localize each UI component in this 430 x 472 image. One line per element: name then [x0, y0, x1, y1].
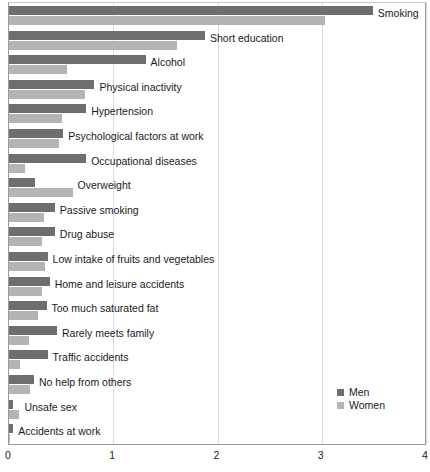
legend-label: Women: [349, 399, 385, 411]
bar-group: Alcohol: [9, 55, 425, 75]
bar-men: [9, 178, 35, 187]
bar-men: [9, 277, 50, 286]
bar-group: Drug abuse: [9, 227, 425, 247]
bar-women: [9, 16, 325, 25]
legend-swatch-icon: [337, 389, 344, 396]
bar-women: [9, 262, 45, 271]
bar-category-label: Short education: [210, 32, 284, 44]
bar-category-label: Occupational diseases: [91, 155, 197, 167]
bar-category-label: No help from others: [39, 376, 131, 388]
bar-women: [9, 336, 29, 345]
bar-category-label: Rarely meets family: [62, 327, 154, 339]
plot-area: SmokingShort educationAlcoholPhysical in…: [8, 2, 426, 445]
bar-women: [9, 90, 85, 99]
legend-swatch-icon: [337, 402, 344, 409]
bar-men: [9, 6, 373, 15]
bar-men: [9, 301, 47, 310]
bar-men: [9, 80, 94, 89]
bar-women: [9, 188, 73, 197]
bar-group: Smoking: [9, 6, 425, 26]
legend-label: Men: [349, 386, 369, 398]
bar-category-label: Traffic accidents: [53, 351, 129, 363]
bar-women: [9, 41, 177, 50]
bar-category-label: Low intake of fruits and vegetables: [53, 253, 215, 265]
bar-women: [9, 164, 25, 173]
bar-women: [9, 410, 19, 419]
bar-men: [9, 424, 13, 433]
x-tick-label-4: 4: [422, 449, 428, 461]
bar-category-label: Home and leisure accidents: [55, 278, 185, 290]
x-tick-label-3: 3: [318, 449, 324, 461]
bar-men: [9, 203, 55, 212]
bar-category-label: Passive smoking: [60, 204, 139, 216]
x-tick-label-0: 0: [5, 449, 11, 461]
bar-men: [9, 375, 34, 384]
bar-men: [9, 129, 63, 138]
bar-group: Home and leisure accidents: [9, 277, 425, 297]
bar-men: [9, 350, 48, 359]
bar-women: [9, 114, 62, 123]
x-tick-label-1: 1: [109, 449, 115, 461]
bar-category-label: Alcohol: [151, 56, 185, 68]
bar-category-label: Physical inactivity: [99, 81, 181, 93]
bar-category-label: Accidents at work: [18, 425, 100, 437]
bar-group: Overweight: [9, 178, 425, 198]
bar-women: [9, 237, 42, 246]
bar-category-label: Unsafe sex: [24, 401, 77, 413]
bar-category-label: Hypertension: [91, 105, 153, 117]
bar-men: [9, 252, 48, 261]
legend-item-women[interactable]: Women: [337, 399, 385, 411]
bar-women: [9, 65, 67, 74]
bar-group: Accidents at work: [9, 424, 425, 444]
bar-men: [9, 400, 13, 409]
bar-men: [9, 154, 86, 163]
bar-women: [9, 311, 38, 320]
risk-factors-bar-chart: SmokingShort educationAlcoholPhysical in…: [0, 0, 430, 472]
bar-men: [9, 55, 146, 64]
bar-women: [9, 213, 44, 222]
bar-women: [9, 434, 10, 443]
bar-group: Hypertension: [9, 104, 425, 124]
bar-men: [9, 326, 57, 335]
bar-category-label: Drug abuse: [60, 228, 114, 240]
bar-group: Passive smoking: [9, 203, 425, 223]
bar-women: [9, 139, 59, 148]
x-tick-label-2: 2: [214, 449, 220, 461]
chart-legend: MenWomen: [337, 386, 385, 412]
bar-category-label: Psychological factors at work: [68, 130, 203, 142]
bar-group: Low intake of fruits and vegetables: [9, 252, 425, 272]
bar-group: Too much saturated fat: [9, 301, 425, 321]
bar-group: Traffic accidents: [9, 350, 425, 370]
bar-group: Physical inactivity: [9, 80, 425, 100]
bar-men: [9, 227, 55, 236]
bar-women: [9, 360, 20, 369]
bar-group: Rarely meets family: [9, 326, 425, 346]
x-axis: 01234: [8, 446, 426, 466]
bar-women: [9, 385, 30, 394]
bar-category-label: Smoking: [378, 7, 419, 19]
bar-men: [9, 104, 86, 113]
legend-item-men[interactable]: Men: [337, 386, 385, 398]
gridline-x-4: [426, 3, 427, 444]
bar-category-label: Too much saturated fat: [52, 302, 159, 314]
bar-group: Short education: [9, 31, 425, 51]
bar-men: [9, 31, 205, 40]
bar-group: Psychological factors at work: [9, 129, 425, 149]
bar-group: Occupational diseases: [9, 154, 425, 174]
bar-category-label: Overweight: [78, 179, 131, 191]
bar-women: [9, 287, 42, 296]
